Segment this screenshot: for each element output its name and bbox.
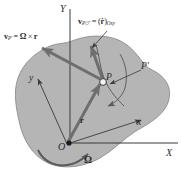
velocity-relative-equation: vP/ℱ=(ṙ)Oxy [78,18,115,26]
origin-point-dot [66,140,71,145]
global-x-axis-label: X [166,148,172,158]
velocity-relative-equals: = [92,17,97,26]
kinematics-figure: Y X y x O P P' r Ω vP'=Ω×r vP/ℱ=(ṙ)Oxy [0,0,182,181]
velocity-transport-subscript: P' [8,35,12,41]
velocity-transport-cross: × [28,32,33,41]
origin-point-label: O [58,142,65,152]
velocity-relative-subscript: P/ℱ [82,20,90,26]
body-y-axis-label: y [29,74,33,84]
rigid-body-shape [15,36,169,167]
velocity-transport-omega: Ω [20,32,27,41]
omega-label: Ω [84,155,92,165]
velocity-transport-r: r [34,32,38,41]
point-p-label: P [106,73,112,83]
point-p-prime-label: P' [141,62,149,72]
velocity-transport-equals: = [14,32,19,41]
body-x-axis-label: x [137,118,141,128]
position-vector-label: r [80,116,84,125]
velocity-transport-equation: vP'=Ω×r [4,33,37,41]
global-y-axis-label: Y [60,4,66,14]
velocity-relative-frame-subscript: Oxy [107,20,115,26]
